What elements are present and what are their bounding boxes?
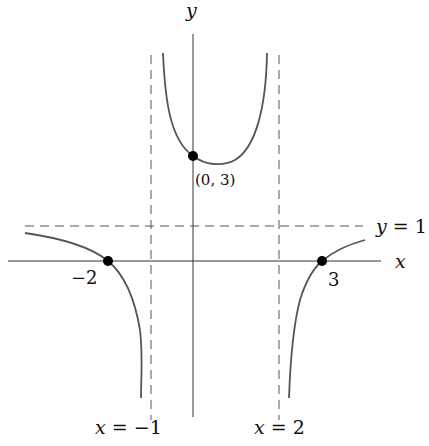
graph-canvas: y x −2 3 (0, 3) y = 1 x = −1 x = 2 — [0, 0, 429, 446]
point-x-intercept-neg2 — [103, 256, 113, 266]
label-point-0-3: (0, 3) — [195, 171, 235, 189]
label-asymptote-y-1-var: y — [375, 215, 387, 237]
curve-middle-branch — [163, 53, 267, 164]
label-asymptote-x-neg1-rest: = −1 — [106, 416, 162, 438]
label-point-neg2: −2 — [71, 267, 98, 288]
label-asymptote-x-2: x = 2 — [254, 416, 305, 438]
label-asymptote-y-1-rest: = 1 — [387, 215, 427, 237]
curve-left-branch — [25, 233, 142, 398]
label-asymptote-x-2-rest: = 2 — [265, 416, 305, 438]
point-y-intercept — [188, 151, 198, 161]
label-asymptote-y-1: y = 1 — [375, 215, 427, 237]
point-x-intercept-3 — [317, 256, 327, 266]
y-axis-label: y — [185, 0, 197, 21]
curve-right-branch — [289, 240, 365, 398]
label-point-3: 3 — [328, 269, 339, 290]
label-asymptote-x-neg1-var: x — [95, 416, 106, 438]
x-axis-label: x — [395, 250, 406, 272]
label-asymptote-x-2-var: x — [254, 416, 265, 438]
label-asymptote-x-neg1: x = −1 — [95, 416, 162, 438]
